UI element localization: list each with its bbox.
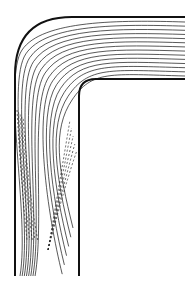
solid-streamlines (15, 21, 185, 276)
streamline (15, 21, 185, 276)
streamline (25, 34, 185, 276)
flow-diagram-svg (0, 0, 196, 292)
streamline (50, 62, 185, 255)
streamline (46, 58, 185, 265)
flow-diagram (0, 0, 196, 292)
dashed-streamline (48, 128, 72, 250)
streamline (22, 29, 185, 276)
inner-wall (79, 79, 185, 276)
streamline (33, 46, 185, 276)
dashed-streamline (48, 120, 70, 250)
streamline (35, 50, 185, 276)
streamline (53, 66, 185, 246)
streamline (43, 54, 185, 274)
streamline (31, 42, 185, 276)
